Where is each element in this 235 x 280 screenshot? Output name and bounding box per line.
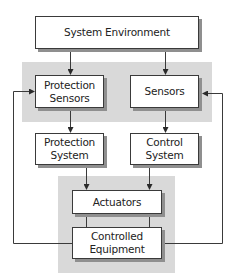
protection-sensors-block: Protection Sensors	[35, 75, 104, 108]
system-environment-block: System Environment	[35, 16, 199, 49]
control-system-block: Control System	[130, 133, 199, 165]
protection-system-block: Protection System	[35, 133, 104, 165]
actuators-block: Actuators	[72, 190, 162, 214]
sensors-block: Sensors	[130, 75, 199, 108]
controlled-equipment-block: Controlled Equipment	[72, 227, 162, 259]
